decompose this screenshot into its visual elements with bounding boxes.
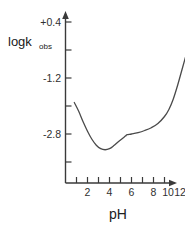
x-tick-label-2: 2	[85, 186, 91, 198]
y-axis	[62, 11, 71, 183]
x-tick-label-10: 10	[162, 186, 174, 198]
y-tick-label-mid: -1.2	[43, 72, 61, 84]
x-tick-label-6: 6	[129, 186, 135, 198]
x-tick-label-4: 4	[107, 186, 113, 198]
chart-svg: +0.4 -1.2 -2.8 2 4 6 8 10 12 logk obs pH	[0, 0, 185, 229]
x-tick-label-8: 8	[151, 186, 157, 198]
ph-rate-profile-chart: +0.4 -1.2 -2.8 2 4 6 8 10 12 logk obs pH	[0, 0, 185, 229]
y-tick-label-top: +0.4	[40, 16, 61, 28]
y-axis-title-main: logk	[8, 34, 32, 49]
x-tick-label-12: 12	[174, 186, 185, 198]
data-curve	[74, 23, 185, 150]
y-axis-title: logk obs	[8, 34, 52, 51]
x-axis-title: pH	[109, 206, 127, 222]
y-axis-arrowhead	[62, 11, 69, 19]
y-tick-label-low: -2.8	[43, 128, 61, 140]
x-axis	[66, 177, 178, 186]
y-axis-title-subscript: obs	[39, 42, 52, 51]
